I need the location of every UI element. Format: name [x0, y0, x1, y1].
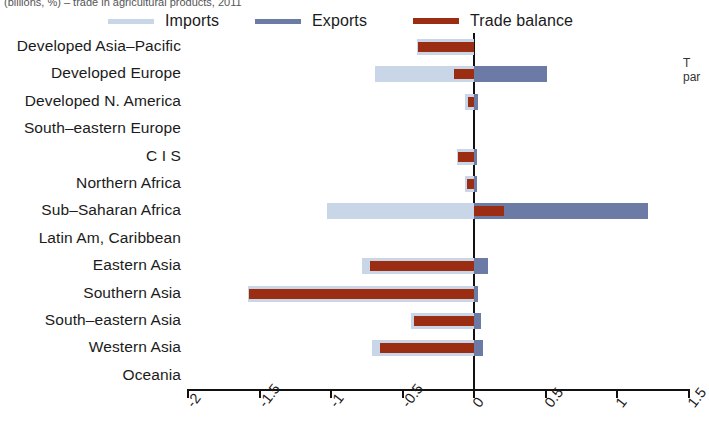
bar-exports — [474, 149, 477, 165]
chart-legend: Imports Exports Trade balance — [0, 9, 709, 33]
value-axis: -2-1.5-1-0.500.511.5 — [0, 389, 709, 440]
bars-container — [0, 33, 709, 393]
bar-exports — [474, 340, 483, 356]
chart-title-text: (billions, %) – trade in agricultural pr… — [4, 0, 709, 8]
bar-trade-balance — [249, 289, 474, 299]
bar-exports — [474, 258, 488, 274]
bar-trade-balance — [467, 179, 474, 189]
axis-tick-label: 0 — [470, 395, 486, 410]
legend-label-exports: Exports — [312, 13, 367, 29]
bar-trade-balance — [418, 42, 474, 52]
legend-swatch-imports — [108, 19, 154, 24]
bar-trade-balance — [414, 316, 474, 326]
legend-swatch-trade-balance — [413, 18, 459, 24]
bar-imports — [327, 203, 474, 219]
chart-title-cropped: (billions, %) – trade in agricultural pr… — [0, 0, 709, 9]
axis-tick-label: -2 — [184, 391, 203, 410]
bar-trade-balance — [370, 261, 474, 271]
legend-item-imports: Imports — [108, 13, 219, 29]
bar-trade-balance — [474, 206, 504, 216]
axis-tick-label: -1 — [327, 391, 346, 410]
bar-trade-balance — [380, 343, 474, 353]
plot-area: Developed Asia–PacificDeveloped EuropeDe… — [0, 33, 709, 393]
bar-exports — [474, 313, 481, 329]
axis-tick-label: 1 — [613, 395, 629, 410]
bar-exports — [474, 176, 477, 192]
legend-item-exports: Exports — [255, 13, 367, 29]
bar-exports — [474, 94, 478, 110]
bar-exports — [474, 286, 478, 302]
legend-label-imports: Imports — [165, 13, 219, 29]
bar-exports — [474, 66, 547, 82]
bar-trade-balance — [468, 97, 474, 107]
bar-trade-balance — [458, 152, 474, 162]
legend-label-trade-balance: Trade balance — [470, 13, 573, 29]
bar-trade-balance — [454, 69, 474, 79]
legend-item-trade-balance: Trade balance — [413, 13, 573, 29]
legend-swatch-exports — [255, 19, 301, 24]
